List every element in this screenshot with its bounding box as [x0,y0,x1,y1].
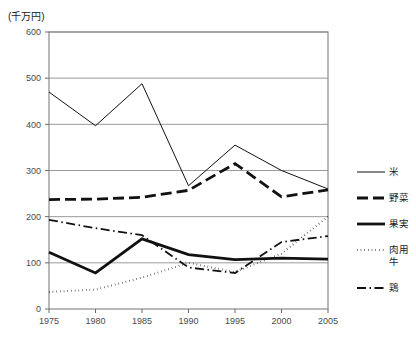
legend-label-4: 鶏 [389,282,399,293]
series-line-2 [49,239,328,273]
x-axis-ticks: 1975198019851990199520002005 [39,309,338,326]
series-line-4 [49,220,328,273]
chart-container: (千万円) 0100200300400500600 19751980198519… [0,0,416,347]
y-tick-label: 400 [26,120,41,130]
series-line-1 [49,164,328,200]
x-tick-label: 2005 [318,316,338,326]
y-tick-label: 500 [26,73,41,83]
data-series-group [49,84,328,292]
chart-legend: 米野菜果実肉用牛鶏 [357,166,409,293]
line-chart-plot: 0100200300400500600 19751980198519901995… [0,0,416,347]
x-tick-label: 2000 [271,316,291,326]
x-tick-label: 1975 [39,316,59,326]
x-tick-label: 1980 [85,316,105,326]
x-tick-label: 1995 [225,316,245,326]
y-tick-label: 600 [26,27,41,37]
legend-label-1: 野菜 [389,192,409,203]
x-tick-label: 1990 [178,316,198,326]
legend-label-2: 果実 [389,218,409,229]
y-tick-label: 0 [36,304,41,314]
y-tick-label: 300 [26,166,41,176]
legend-label-0: 米 [389,166,399,177]
y-axis-ticks: 0100200300400500600 [26,27,49,314]
legend-label-3: 肉用 [389,244,409,255]
x-tick-label: 1985 [132,316,152,326]
series-line-0 [49,84,328,189]
y-tick-label: 100 [26,258,41,268]
y-tick-label: 200 [26,212,41,222]
legend-label-3-line2: 牛 [389,256,399,267]
